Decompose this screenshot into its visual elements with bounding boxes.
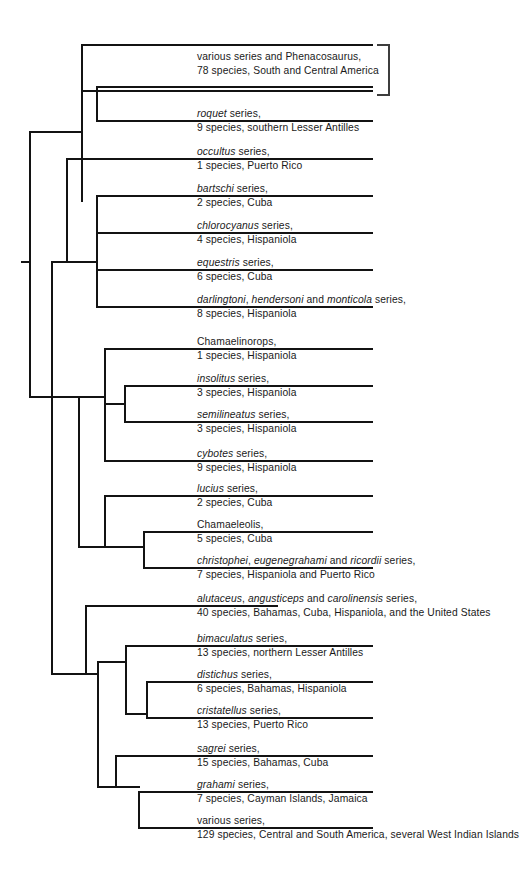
branch-cladeA-inner-vertical	[96, 195, 98, 263]
taxon-name: various series and Phenacosaurus,	[197, 50, 379, 64]
taxon-label-insolitus: insolitus series, 3 species, Hispaniola	[197, 372, 296, 399]
taxon-info: 6 species, Cuba	[197, 270, 274, 284]
taxon-label-roquet: roquet series, 9 species, southern Lesse…	[197, 107, 359, 134]
branch-roquet-stem	[96, 86, 373, 88]
taxon-info: 2 species, Cuba	[197, 496, 272, 510]
taxon-label-various-phenacosaurus: various series and Phenacosaurus, 78 spe…	[197, 50, 379, 77]
branch-basal-clade-stem	[29, 131, 83, 133]
taxon-info: 129 species, Central and South America, …	[197, 828, 519, 842]
taxon-info: 5 species, Cuba	[197, 532, 272, 546]
branch-sagrei-group-stem	[97, 786, 117, 788]
taxon-label-alutaceus: alutaceus, angusticeps and carolinensis …	[197, 592, 491, 619]
branch-cladeB-stem	[51, 396, 80, 398]
taxon-name: Chamaelinorops,	[197, 335, 296, 349]
branch-distichus-pair-stem	[125, 713, 148, 715]
taxon-name: lucius series,	[197, 482, 272, 496]
taxon-name: darlingtoni, hendersoni and monticola se…	[197, 293, 406, 307]
taxon-info: 8 species, Hispaniola	[197, 307, 406, 321]
taxon-name: insolitus series,	[197, 372, 296, 386]
taxon-name: cybotes series,	[197, 447, 296, 461]
branch-bimaculatus-group-stem	[97, 661, 127, 663]
taxon-info: 4 species, Hispaniola	[197, 233, 296, 247]
branch-sagrei-group-vertical	[115, 755, 117, 788]
taxon-info: 2 species, Cuba	[197, 196, 272, 210]
cladogram-figure: various series and Phenacosaurus, 78 spe…	[0, 0, 527, 891]
taxon-name: chlorocyanus series,	[197, 219, 296, 233]
taxon-info: 13 species, northern Lesser Antilles	[197, 646, 363, 660]
taxon-label-sagrei: sagrei series, 15 species, Bahamas, Cuba	[197, 742, 328, 769]
branch-cladeA-vertical	[66, 158, 68, 263]
branch-cladeB2-vertical	[85, 605, 87, 675]
taxon-name: alutaceus, angusticeps and carolinensis …	[197, 592, 491, 606]
taxon-info: 40 species, Bahamas, Cuba, Hispaniola, a…	[197, 606, 491, 620]
branch-cladeA-inner-stem	[66, 261, 98, 263]
branch-crown-vertical	[51, 261, 53, 398]
taxon-info: 9 species, Hispaniola	[197, 461, 296, 475]
taxon-name: distichus series,	[197, 668, 347, 682]
taxon-label-distichus: distichus series, 6 species, Bahamas, Hi…	[197, 668, 347, 695]
taxon-info: 13 species, Puerto Rico	[197, 718, 308, 732]
branch-chamaeleolis-pair-vertical	[143, 531, 145, 568]
taxon-info: 78 species, South and Central America	[197, 64, 379, 78]
branch-tip-various-phenacosaurus-bottom	[81, 90, 373, 92]
branch-crown-stem	[29, 396, 53, 398]
branch-cladeB1-vertical	[78, 396, 80, 548]
branch-tip-various-phenacosaurus-top	[81, 44, 373, 46]
taxon-info: 1 species, Puerto Rico	[197, 159, 302, 173]
taxon-name: grahami series,	[197, 778, 368, 792]
taxon-info: 7 species, Hispaniola and Puerto Rico	[197, 568, 415, 582]
branch-bimaculatus-group-vertical	[125, 645, 127, 715]
taxon-name: occultus series,	[197, 145, 302, 159]
taxon-name: various series,	[197, 814, 519, 828]
taxon-info: 1 species, Hispaniola	[197, 349, 296, 363]
taxon-label-grahami: grahami series, 7 species, Cayman Island…	[197, 778, 368, 805]
branch-root-vertical	[29, 131, 31, 398]
taxon-label-bimaculatus: bimaculatus series, 13 species, northern…	[197, 632, 363, 659]
branch-roquet-node-vertical	[96, 86, 98, 122]
branch-grahami-pair-vertical	[138, 791, 140, 827]
branch-grahami-pair-stem	[115, 786, 140, 788]
taxon-info: 3 species, Hispaniola	[197, 422, 296, 436]
taxon-name: semilineatus series,	[197, 408, 296, 422]
taxon-label-cybotes: cybotes series, 9 species, Hispaniola	[197, 447, 296, 474]
branch-cladeB-main-vertical	[51, 396, 53, 674]
branch-cladeB1b-stem	[78, 546, 106, 548]
branch-cladeB2-stem	[51, 673, 87, 675]
taxon-name: Chamaeleolis,	[197, 518, 272, 532]
taxon-name: sagrei series,	[197, 742, 328, 756]
taxon-name: roquet series,	[197, 107, 359, 121]
taxon-label-chamaeleolis: Chamaeleolis, 5 species, Cuba	[197, 518, 272, 545]
taxon-label-lucius: lucius series, 2 species, Cuba	[197, 482, 272, 509]
taxon-label-various-lower: various series, 129 species, Central and…	[197, 814, 519, 841]
taxon-label-darlingtoni: darlingtoni, hendersoni and monticola se…	[197, 293, 406, 320]
taxon-info: 9 species, southern Lesser Antilles	[197, 121, 359, 135]
branch-cladeB1b-vertical	[104, 495, 106, 548]
taxon-name: bimaculatus series,	[197, 632, 363, 646]
taxon-info: 6 species, Bahamas, Hispaniola	[197, 682, 347, 696]
taxon-name: cristatellus series,	[197, 704, 308, 718]
taxon-label-chlorocyanus: chlorocyanus series, 4 species, Hispanio…	[197, 219, 296, 246]
taxon-info: 3 species, Hispaniola	[197, 386, 296, 400]
branch-insolitus-pair-stem	[104, 403, 126, 405]
branch-cladeB2-inner-vertical	[97, 661, 99, 786]
branch-insolitus-pair-vertical	[124, 385, 126, 421]
branch-cladeB1a-stem	[78, 396, 106, 398]
taxon-label-cristatellus: cristatellus series, 13 species, Puerto …	[197, 704, 308, 731]
taxon-label-christophei: christophei, eugenegrahami and ricordii …	[197, 554, 415, 581]
branch-chamaeleolis-pair-stem	[104, 546, 145, 548]
taxon-label-chamaelinorops: Chamaelinorops, 1 species, Hispaniola	[197, 335, 296, 362]
taxon-label-semilineatus: semilineatus series, 3 species, Hispanio…	[197, 408, 296, 435]
taxon-label-equestris: equestris series, 6 species, Cuba	[197, 256, 274, 283]
taxon-name: equestris series,	[197, 256, 274, 270]
branch-distichus-pair-vertical	[146, 681, 148, 717]
taxon-label-occultus: occultus series, 1 species, Puerto Rico	[197, 145, 302, 172]
taxon-name: bartschi series,	[197, 182, 272, 196]
branch-basal-clade-vertical	[81, 44, 83, 202]
branch-cladeB1a-vertical	[104, 348, 106, 462]
taxon-label-bartschi: bartschi series, 2 species, Cuba	[197, 182, 272, 209]
taxon-info: 7 species, Cayman Islands, Jamaica	[197, 792, 368, 806]
taxon-info: 15 species, Bahamas, Cuba	[197, 756, 328, 770]
taxon-name: christophei, eugenegrahami and ricordii …	[197, 554, 415, 568]
branch-cladeA-lower-vertical	[96, 261, 98, 308]
